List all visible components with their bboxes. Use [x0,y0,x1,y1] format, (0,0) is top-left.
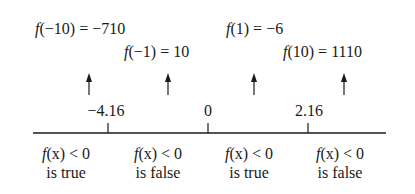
up-arrow-icon [86,73,92,95]
region-label: f(x) < 0 is false [316,144,364,182]
up-arrow-icon [251,73,257,95]
test-value-label: f(−1) = 10 [124,43,189,61]
region-result: is false [316,163,364,182]
region-result: is false [134,163,182,182]
test-value-label: f(1) = −6 [226,20,283,38]
up-arrow-icon [341,73,347,95]
tick-label: −4.16 [87,102,124,120]
region-label: f(x) < 0 is true [42,144,90,182]
sign-chart-diagram: f(−10) = −710 f(−1) = 10 f(1) = −6 f(10)… [0,0,415,194]
region-condition: f(x) < 0 [316,144,364,163]
tick-label: 2.16 [295,102,323,120]
tick-label: 0 [204,102,212,120]
region-condition: f(x) < 0 [225,144,273,163]
region-result: is true [225,163,273,182]
test-value-label: f(−10) = −710 [35,20,125,38]
up-arrow-icon [165,73,171,95]
region-label: f(x) < 0 is false [134,144,182,182]
region-label: f(x) < 0 is true [225,144,273,182]
test-value-label: f(10) = 1110 [283,43,362,61]
region-condition: f(x) < 0 [42,144,90,163]
region-condition: f(x) < 0 [134,144,182,163]
region-result: is true [42,163,90,182]
